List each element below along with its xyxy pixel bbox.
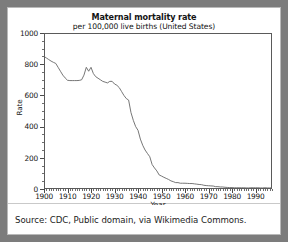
x-minor-tick xyxy=(213,189,214,191)
x-minor-tick xyxy=(230,189,231,191)
x-minor-tick xyxy=(86,189,87,191)
y-minor-tick xyxy=(42,119,44,120)
x-minor-tick xyxy=(119,189,120,191)
x-minor-tick xyxy=(157,189,158,191)
x-minor-tick xyxy=(223,189,224,191)
x-minor-tick xyxy=(63,189,64,191)
x-minor-tick xyxy=(183,189,184,191)
x-minor-tick xyxy=(107,189,108,191)
source-caption: Source: CDC, Public domain, via Wikimedi… xyxy=(8,215,246,225)
x-minor-tick xyxy=(79,189,80,191)
x-minor-tick xyxy=(201,189,202,191)
x-minor-tick xyxy=(152,189,153,191)
x-minor-tick xyxy=(187,189,188,191)
x-minor-tick xyxy=(204,189,205,191)
x-minor-tick xyxy=(206,189,207,191)
x-minor-tick xyxy=(89,189,90,191)
x-minor-tick xyxy=(93,189,94,191)
x-minor-tick xyxy=(241,189,242,191)
x-minor-tick xyxy=(154,189,155,191)
x-minor-tick xyxy=(98,189,99,191)
x-minor-tick xyxy=(199,189,200,191)
y-tick-label: 1000 xyxy=(8,29,38,38)
x-minor-tick xyxy=(117,189,118,191)
screenshot-frame: Maternal mortality rate per 100,000 live… xyxy=(0,0,288,242)
y-minor-tick xyxy=(42,134,44,135)
x-tick-mark xyxy=(138,189,139,193)
y-tick-label: 600 xyxy=(8,91,38,100)
x-minor-tick xyxy=(110,189,111,191)
x-minor-tick xyxy=(248,189,249,191)
x-minor-tick xyxy=(178,189,179,191)
x-minor-tick xyxy=(150,189,151,191)
x-minor-tick xyxy=(251,189,252,191)
x-minor-tick xyxy=(140,189,141,191)
x-minor-tick xyxy=(194,189,195,191)
x-minor-tick xyxy=(105,189,106,191)
chart-subtitle: per 100,000 live births (United States) xyxy=(8,22,280,31)
x-tick-mark xyxy=(232,189,233,193)
x-minor-tick xyxy=(253,189,254,191)
x-minor-tick xyxy=(103,189,104,191)
x-minor-tick xyxy=(70,189,71,191)
y-minor-tick xyxy=(42,150,44,151)
x-minor-tick xyxy=(171,189,172,191)
y-tick-mark xyxy=(40,95,44,96)
x-minor-tick xyxy=(159,189,160,191)
x-minor-tick xyxy=(51,189,52,191)
x-minor-tick xyxy=(211,189,212,191)
x-minor-tick xyxy=(96,189,97,191)
x-tick-mark xyxy=(256,189,257,193)
x-minor-tick xyxy=(72,189,73,191)
x-minor-tick xyxy=(244,189,245,191)
x-minor-tick xyxy=(173,189,174,191)
y-tick-mark xyxy=(40,33,44,34)
chart-region: Maternal mortality rate per 100,000 live… xyxy=(8,8,280,204)
x-minor-tick xyxy=(122,189,123,191)
y-tick-label: 200 xyxy=(8,154,38,163)
x-minor-tick xyxy=(169,189,170,191)
x-tick-mark xyxy=(68,189,69,193)
y-tick-mark xyxy=(40,64,44,65)
y-minor-tick xyxy=(42,56,44,57)
x-minor-tick xyxy=(180,189,181,191)
x-minor-tick xyxy=(75,189,76,191)
y-minor-tick xyxy=(42,166,44,167)
y-minor-tick xyxy=(42,181,44,182)
x-minor-tick xyxy=(143,189,144,191)
x-minor-tick xyxy=(190,189,191,191)
x-minor-tick xyxy=(227,189,228,191)
x-minor-tick xyxy=(166,189,167,191)
x-minor-tick xyxy=(49,189,50,191)
x-minor-tick xyxy=(145,189,146,191)
x-minor-tick xyxy=(258,189,259,191)
x-minor-tick xyxy=(136,189,137,191)
y-minor-tick xyxy=(42,103,44,104)
x-minor-tick xyxy=(225,189,226,191)
x-minor-tick xyxy=(272,189,273,191)
x-minor-tick xyxy=(239,189,240,191)
x-tick-mark xyxy=(209,189,210,193)
x-minor-tick xyxy=(192,189,193,191)
series-line-maternal-mortality xyxy=(44,56,272,188)
x-minor-tick xyxy=(82,189,83,191)
x-minor-tick xyxy=(112,189,113,191)
x-tick-mark xyxy=(91,189,92,193)
y-tick-mark xyxy=(40,127,44,128)
x-minor-tick xyxy=(220,189,221,191)
x-tick-mark xyxy=(162,189,163,193)
y-minor-tick xyxy=(42,88,44,89)
x-minor-tick xyxy=(164,189,165,191)
x-minor-tick xyxy=(133,189,134,191)
x-tick-mark xyxy=(44,189,45,193)
y-minor-tick xyxy=(42,173,44,174)
x-minor-tick xyxy=(265,189,266,191)
figure-card: Maternal mortality rate per 100,000 live… xyxy=(7,7,281,235)
x-tick-mark xyxy=(185,189,186,193)
y-tick-mark xyxy=(40,158,44,159)
y-minor-tick xyxy=(42,41,44,42)
chart-title: Maternal mortality rate xyxy=(8,12,280,22)
y-minor-tick xyxy=(42,142,44,143)
x-minor-tick xyxy=(58,189,59,191)
x-minor-tick xyxy=(218,189,219,191)
